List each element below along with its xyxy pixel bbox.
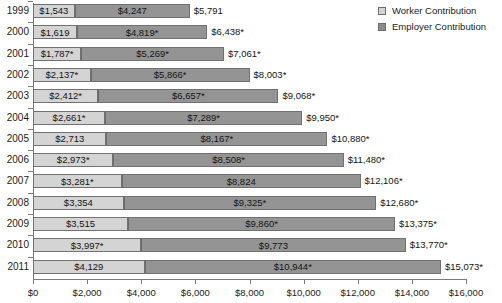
x-axis-tick-label: $0 bbox=[28, 287, 39, 298]
y-axis-year-label: 2007 bbox=[0, 174, 29, 188]
stacked-bar[interactable]: $3,515$9,860* bbox=[33, 217, 395, 231]
x-axis-tick bbox=[195, 279, 196, 284]
bar-segment-employer[interactable]: $9,325* bbox=[124, 196, 376, 210]
bar-segment-worker-label: $1,543 bbox=[39, 6, 68, 16]
y-axis-tick bbox=[28, 257, 33, 258]
stacked-bar[interactable]: $2,137*$5,866* bbox=[33, 68, 250, 82]
stacked-bar[interactable]: $4,129$10,944* bbox=[33, 260, 441, 274]
bar-segment-employer-label: $5,866* bbox=[154, 70, 187, 80]
y-axis-year-label: 2000 bbox=[0, 25, 29, 39]
bar-segment-employer-label: $10,944* bbox=[274, 262, 312, 272]
bar-total-label: $11,480* bbox=[348, 153, 385, 167]
bar-segment-employer[interactable]: $8,824 bbox=[122, 174, 361, 188]
bar-segment-employer-label: $7,289* bbox=[187, 113, 220, 123]
bar-segment-employer-label: $5,269* bbox=[136, 49, 169, 59]
plot-area: 1999$1,543$4,247$5,7912000$1,619$4,819*$… bbox=[0, 0, 502, 303]
stacked-bar[interactable]: $2,661*$7,289* bbox=[33, 111, 302, 125]
bar-total-label: $12,106* bbox=[365, 174, 403, 188]
x-axis-tick-label: $16,000 bbox=[449, 287, 483, 298]
bar-segment-employer[interactable]: $5,269* bbox=[81, 47, 224, 61]
bar-segment-worker[interactable]: $3,354 bbox=[33, 196, 124, 210]
y-axis-tick bbox=[28, 44, 33, 45]
stacked-bar[interactable]: $2,713$8,167* bbox=[33, 132, 327, 146]
x-axis-tick-label: $10,000 bbox=[286, 287, 320, 298]
y-axis-tick bbox=[28, 193, 33, 194]
bar-segment-employer[interactable]: $5,866* bbox=[91, 68, 250, 82]
y-axis-year-label: 2008 bbox=[0, 196, 29, 210]
y-axis-year-label: 2006 bbox=[0, 153, 29, 167]
bar-total-label: $15,073* bbox=[445, 260, 483, 274]
bar-segment-employer[interactable]: $10,944* bbox=[145, 260, 441, 274]
stacked-bar[interactable]: $2,973*$8,508* bbox=[33, 153, 344, 167]
bar-total-label: $5,791 bbox=[194, 4, 223, 18]
bar-segment-worker-label: $2,973* bbox=[57, 155, 90, 165]
bar-segment-employer-label: $9,325* bbox=[234, 198, 267, 208]
bar-total-label: $9,068* bbox=[282, 89, 315, 103]
bar-segment-worker[interactable]: $2,713 bbox=[33, 132, 106, 146]
bar-segment-worker[interactable]: $2,973* bbox=[33, 153, 113, 167]
y-axis-year-label: 2009 bbox=[0, 217, 29, 231]
bar-segment-employer-label: $9,773 bbox=[259, 241, 288, 251]
stacked-bar[interactable]: $1,787*$5,269* bbox=[33, 47, 224, 61]
bar-segment-employer-label: $4,247 bbox=[118, 6, 147, 16]
y-axis-tick bbox=[28, 171, 33, 172]
stacked-bar[interactable]: $2,412*$6,657* bbox=[33, 89, 278, 103]
bar-segment-employer-label: $6,657* bbox=[172, 91, 205, 101]
y-axis-year-label: 2005 bbox=[0, 132, 29, 146]
bar-segment-worker-label: $2,713 bbox=[55, 134, 84, 144]
stacked-bar[interactable]: $1,543$4,247 bbox=[33, 4, 190, 18]
bar-total-label: $9,950* bbox=[306, 111, 339, 125]
bar-segment-worker[interactable]: $2,661* bbox=[33, 111, 105, 125]
x-axis-tick bbox=[412, 279, 413, 284]
bar-segment-employer-label: $4,819* bbox=[126, 28, 159, 38]
stacked-bar[interactable]: $3,354$9,325* bbox=[33, 196, 376, 210]
y-axis-tick bbox=[28, 150, 33, 151]
x-axis-tick bbox=[33, 279, 34, 284]
bar-segment-worker[interactable]: $3,997* bbox=[33, 238, 141, 252]
bar-segment-employer[interactable]: $9,860* bbox=[128, 217, 395, 231]
x-axis-tick bbox=[87, 279, 88, 284]
bar-segment-employer[interactable]: $6,657* bbox=[98, 89, 278, 103]
y-axis-year-label: 2002 bbox=[0, 68, 29, 82]
stacked-bar[interactable]: $1,619$4,819* bbox=[33, 25, 207, 39]
bar-total-label: $8,003* bbox=[254, 68, 287, 82]
bar-segment-worker[interactable]: $4,129 bbox=[33, 260, 145, 274]
bar-segment-employer[interactable]: $7,289* bbox=[105, 111, 302, 125]
bar-segment-worker[interactable]: $1,543 bbox=[33, 4, 75, 18]
bar-segment-worker[interactable]: $2,412* bbox=[33, 89, 98, 103]
bar-segment-worker-label: $2,137* bbox=[46, 70, 79, 80]
x-axis-tick bbox=[141, 279, 142, 284]
bar-segment-employer-label: $8,508* bbox=[212, 155, 245, 165]
bar-segment-employer[interactable]: $4,819* bbox=[77, 25, 207, 39]
y-axis-year-label: 1999 bbox=[0, 4, 29, 18]
x-axis-tick bbox=[466, 279, 467, 284]
bar-segment-employer[interactable]: $9,773 bbox=[141, 238, 405, 252]
y-axis-tick bbox=[28, 235, 33, 236]
x-axis-tick-label: $6,000 bbox=[181, 287, 210, 298]
bar-total-label: $7,061* bbox=[228, 47, 261, 61]
bar-segment-employer[interactable]: $4,247 bbox=[75, 4, 190, 18]
x-axis-tick-label: $8,000 bbox=[235, 287, 264, 298]
bar-segment-worker[interactable]: $3,515 bbox=[33, 217, 128, 231]
y-axis-tick bbox=[28, 65, 33, 66]
y-axis-tick bbox=[28, 22, 33, 23]
bar-segment-employer-label: $8,824 bbox=[227, 177, 256, 187]
y-axis-tick bbox=[28, 1, 33, 2]
y-axis-year-label: 2001 bbox=[0, 47, 29, 61]
x-axis-tick-label: $12,000 bbox=[341, 287, 375, 298]
bar-segment-worker[interactable]: $3,281* bbox=[33, 174, 122, 188]
bar-segment-employer[interactable]: $8,167* bbox=[106, 132, 327, 146]
bar-segment-worker[interactable]: $2,137* bbox=[33, 68, 91, 82]
bar-segment-worker[interactable]: $1,787* bbox=[33, 47, 81, 61]
bar-segment-employer[interactable]: $8,508* bbox=[113, 153, 343, 167]
stacked-bar[interactable]: $3,281*$8,824 bbox=[33, 174, 361, 188]
x-axis-tick-label: $4,000 bbox=[127, 287, 156, 298]
bar-segment-worker[interactable]: $1,619 bbox=[33, 25, 77, 39]
stacked-bar[interactable]: $3,997*$9,773 bbox=[33, 238, 406, 252]
y-axis-year-label: 2004 bbox=[0, 111, 29, 125]
y-axis-year-label: 2011 bbox=[0, 260, 29, 274]
y-axis-year-label: 2010 bbox=[0, 238, 29, 252]
bar-total-label: $12,680* bbox=[380, 196, 418, 210]
bar-segment-worker-label: $2,412* bbox=[49, 91, 82, 101]
y-axis-tick bbox=[28, 129, 33, 130]
